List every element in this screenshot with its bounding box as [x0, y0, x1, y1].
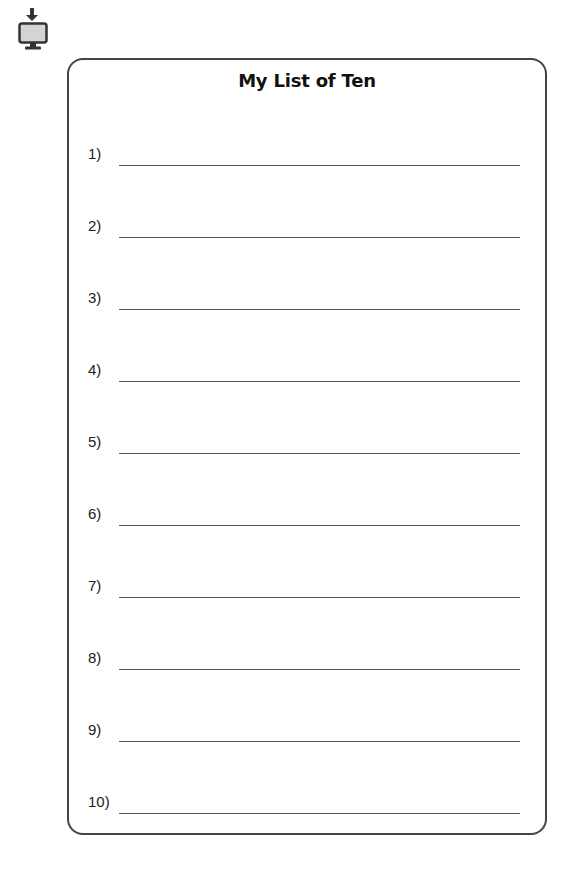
item-number: 8)	[88, 649, 101, 666]
item-entry-line[interactable]	[119, 381, 520, 382]
item-entry-line[interactable]	[119, 525, 520, 526]
list-item: 8)	[69, 646, 545, 670]
list-item: 3)	[69, 286, 545, 310]
item-entry-line[interactable]	[119, 597, 520, 598]
list-card: My List of Ten 1) 2) 3) 4) 5) 6) 7)	[67, 58, 547, 835]
list-item: 6)	[69, 502, 545, 526]
item-number: 1)	[88, 145, 101, 162]
item-number: 4)	[88, 361, 101, 378]
list-item: 9)	[69, 718, 545, 742]
item-number: 5)	[88, 433, 101, 450]
item-number: 9)	[88, 721, 101, 738]
item-number: 3)	[88, 289, 101, 306]
list-item: 7)	[69, 574, 545, 598]
list-item: 4)	[69, 358, 545, 382]
item-number: 10)	[88, 793, 110, 810]
item-entry-line[interactable]	[119, 237, 520, 238]
list-item: 5)	[69, 430, 545, 454]
numbered-list: 1) 2) 3) 4) 5) 6) 7) 8)	[69, 60, 545, 833]
list-item: 10)	[69, 790, 545, 814]
item-entry-line[interactable]	[119, 165, 520, 166]
item-entry-line[interactable]	[119, 309, 520, 310]
item-entry-line[interactable]	[119, 669, 520, 670]
list-item: 2)	[69, 214, 545, 238]
download-to-monitor-icon[interactable]	[17, 6, 49, 52]
list-item: 1)	[69, 142, 545, 166]
item-number: 6)	[88, 505, 101, 522]
item-entry-line[interactable]	[119, 813, 520, 814]
item-entry-line[interactable]	[119, 741, 520, 742]
item-number: 2)	[88, 217, 101, 234]
item-entry-line[interactable]	[119, 453, 520, 454]
item-number: 7)	[88, 577, 101, 594]
